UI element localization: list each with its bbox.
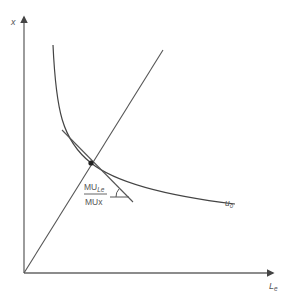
slope-angle-arc — [116, 189, 119, 197]
mrs-numerator: MULe — [84, 182, 105, 193]
mrs-denominator: MUx — [85, 197, 103, 207]
indifference-curve — [53, 45, 235, 204]
tangency-point — [88, 160, 93, 165]
y-axis-label: x — [10, 17, 16, 27]
x-axis-label: Le — [269, 281, 278, 292]
curve-label: u0 — [225, 198, 234, 209]
utility-diagram: x Le u0 MULe MUx — [0, 0, 288, 305]
